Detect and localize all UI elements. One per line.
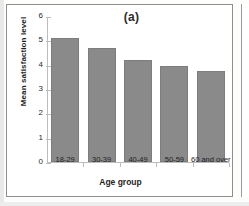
x-tick-label: 18-29 xyxy=(56,155,75,164)
bar xyxy=(197,71,225,162)
y-tick-label: 3 xyxy=(39,84,43,93)
x-tick-label: 50-59 xyxy=(165,155,184,164)
x-tick-mark xyxy=(83,163,84,167)
y-tick-mark xyxy=(46,163,51,164)
y-tick-label: 4 xyxy=(39,60,43,69)
y-tick-label: 5 xyxy=(39,35,43,44)
bar xyxy=(51,38,79,162)
scan-edge-left xyxy=(0,0,4,206)
x-tick-label: 40-49 xyxy=(128,155,147,164)
x-tick-mark xyxy=(156,163,157,167)
figure-frame: (a) Mean satisfaction level 0123456 18-2… xyxy=(6,4,233,197)
y-tick-label: 6 xyxy=(39,11,43,20)
bar xyxy=(88,48,116,162)
plot-area: 0123456 xyxy=(47,17,229,163)
y-tick-label: 1 xyxy=(39,133,43,142)
y-tick-mark xyxy=(46,17,51,18)
x-tick-mark xyxy=(120,163,121,167)
x-axis-title: Age group xyxy=(7,177,234,187)
x-tick-label: 30-39 xyxy=(92,155,111,164)
y-tick-label: 0 xyxy=(39,157,43,166)
adjacent-panel-edge xyxy=(241,4,249,197)
scan-edge-bottom xyxy=(0,202,249,206)
scanned-page: (a) Mean satisfaction level 0123456 18-2… xyxy=(0,0,249,206)
bar xyxy=(160,66,188,162)
y-axis-title: Mean satisfaction level xyxy=(19,4,28,120)
bar xyxy=(124,60,152,162)
x-tick-label: 60 and over xyxy=(191,155,231,164)
y-tick-label: 2 xyxy=(39,108,43,117)
